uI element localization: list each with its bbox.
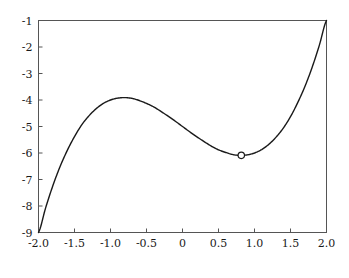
x-tick-label: -1.5 [64,237,85,250]
y-tick-label: -3 [22,68,33,81]
figure-container: -1-2-3-4-5-6-7-8-9 -2.0-1.5-1.0-0.500.51… [0,0,349,278]
y-axis-tick-labels: -1-2-3-4-5-6-7-8-9 [22,15,33,240]
y-tick-label: -8 [22,200,33,213]
x-tick-label: 0.5 [210,237,228,250]
x-axis-tick-labels: -2.0-1.5-1.0-0.500.51.01.52.0 [28,237,335,250]
y-tick-label: -5 [22,121,33,134]
data-point-marker-local-minimum [238,152,244,158]
figure-caption [0,263,349,273]
y-tick-label: -6 [22,147,33,160]
x-tick-label: -0.5 [136,237,157,250]
x-tick-label: 0 [179,237,186,250]
x-tick-label: 1.5 [282,237,300,250]
chart-canvas: -1-2-3-4-5-6-7-8-9 -2.0-1.5-1.0-0.500.51… [0,0,349,278]
x-tick-label: 2.0 [318,237,336,250]
y-tick-label: -7 [22,174,33,187]
y-tick-label: -2 [22,41,33,54]
y-tick-label: -1 [22,15,33,28]
data-point-markers [238,152,244,158]
x-tick-label: -2.0 [28,237,49,250]
x-tick-label: -1.0 [100,237,121,250]
x-tick-label: 1.0 [246,237,264,250]
y-tick-label: -4 [22,94,33,107]
